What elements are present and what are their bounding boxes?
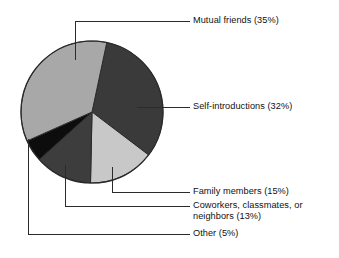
slice-label-family-members: Family members (15%) [193, 186, 289, 197]
slice-label-coworkers: Coworkers, classmates, or neighbors (13%… [193, 200, 333, 223]
slice-label-self-introductions: Self-introductions (32%) [193, 101, 292, 112]
pie-chart-figure: Mutual friends (35%) Self-introductions … [0, 0, 339, 258]
pie-slices [21, 41, 163, 183]
slice-label-mutual-friends: Mutual friends (35%) [193, 15, 279, 26]
slice-label-other: Other (5%) [193, 228, 238, 239]
